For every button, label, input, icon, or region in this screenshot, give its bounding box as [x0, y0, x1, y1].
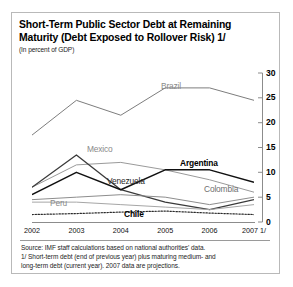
- title-block: Short-Term Public Sector Debt at Remaini…: [19, 19, 271, 53]
- y-tick-20: 20: [266, 117, 286, 127]
- x-tick-2002: 2002: [9, 226, 55, 235]
- figure-panel: Short-Term Public Sector Debt at Remaini…: [11, 12, 280, 274]
- source-line: Source: IMF staff calculations based on …: [21, 244, 271, 253]
- series-label-peru: Peru: [50, 198, 67, 208]
- figure-title-line-2: Maturity (Debt Exposed to Rollover Risk)…: [19, 32, 226, 43]
- y-tick-5: 5: [266, 192, 286, 202]
- footnote-divider: [20, 240, 270, 241]
- series-label-colombia: Colombia: [204, 184, 238, 194]
- x-tick-2003: 2003: [53, 226, 99, 235]
- y-tick-30: 30: [266, 68, 286, 78]
- x-tick-20071: 2007 1/: [231, 226, 277, 235]
- series-label-argentina: Argentina: [180, 158, 218, 168]
- y-tick-0: 0: [266, 217, 286, 227]
- figure-title: Short-Term Public Sector Debt at Remaini…: [19, 19, 271, 44]
- series-label-brazil: Brazil: [161, 81, 181, 91]
- series-label-venezuela: Venezuela: [107, 176, 145, 186]
- y-axis: [254, 72, 263, 223]
- x-axis-line: [32, 222, 255, 223]
- y-tick-10: 10: [266, 167, 286, 177]
- x-tick-2006: 2006: [187, 226, 233, 235]
- y-tick-25: 25: [266, 92, 286, 102]
- figure-subtitle: (In percent of GDP): [19, 46, 271, 53]
- footnote-block: Source: IMF staff calculations based on …: [21, 244, 271, 271]
- series-line-brazil: [32, 88, 254, 135]
- series-label-mexico: Mexico: [87, 144, 113, 154]
- figure-title-line-1: Short-Term Public Sector Debt at Remaini…: [19, 19, 231, 30]
- x-tick-2005: 2005: [142, 226, 188, 235]
- x-tick-2004: 2004: [98, 226, 144, 235]
- footnote-line-1: 1/ Short-term debt (end of previous year…: [21, 253, 271, 262]
- series-label-chile: Chile: [124, 209, 144, 219]
- y-tick-15: 15: [266, 142, 286, 152]
- footnote-line-2: long-term debt (current year). 2007 data…: [21, 262, 271, 271]
